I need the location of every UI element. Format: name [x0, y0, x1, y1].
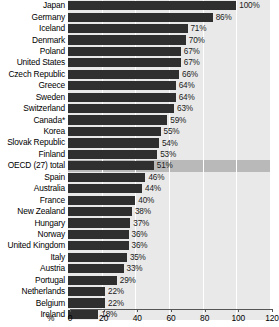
vertical-gridline [203, 172, 204, 183]
vertical-gridline [236, 263, 237, 274]
vertical-gridline [236, 149, 237, 160]
bar-value-label: 59% [170, 116, 186, 125]
bar-value-label: 33% [127, 264, 143, 273]
vertical-gridline [236, 172, 237, 183]
bar [68, 104, 174, 113]
bar [68, 253, 127, 262]
category-label: Slovak Republic [0, 138, 68, 147]
vertical-gridline [270, 92, 271, 103]
bar-value-label: 66% [182, 70, 198, 79]
horizontal-bar-chart: Japan100%Germany86%Iceland71%Denmark70%P… [0, 0, 279, 327]
vertical-gridline [203, 275, 204, 286]
category-label: Netherlands [0, 287, 68, 296]
category-label: Japan [0, 1, 68, 10]
chart-row: Japan100% [0, 0, 279, 11]
vertical-gridline [270, 275, 271, 286]
category-label: OECD (27) total [0, 161, 68, 170]
bar-value-label: 36% [132, 241, 148, 250]
category-label: United States [0, 58, 68, 67]
vertical-gridline [236, 34, 237, 45]
bar-value-label: 67% [184, 58, 200, 67]
vertical-gridline [236, 160, 237, 171]
chart-row: OECD (27) total51% [0, 160, 279, 171]
x-axis-unit-label: % [47, 313, 54, 323]
category-label: Australia [0, 184, 68, 193]
vertical-gridline [203, 114, 204, 125]
vertical-gridline [270, 80, 271, 91]
vertical-gridline [169, 172, 170, 183]
chart-row: Slovak Republic54% [0, 137, 279, 148]
vertical-gridline [270, 206, 271, 217]
vertical-gridline [236, 0, 237, 11]
row-plot-area: 46% [68, 172, 279, 183]
vertical-gridline [135, 297, 136, 308]
bar [68, 207, 132, 216]
vertical-gridline [270, 103, 271, 114]
bar-value-label: 71% [191, 24, 207, 33]
vertical-gridline [203, 103, 204, 114]
x-axis-tick-label: 80 [193, 313, 217, 323]
category-label: Portugal [0, 276, 68, 285]
vertical-gridline [270, 183, 271, 194]
row-plot-area: 70% [68, 34, 279, 45]
vertical-gridline [203, 286, 204, 297]
bar [68, 218, 130, 227]
x-axis-tick [104, 309, 105, 312]
vertical-gridline [270, 126, 271, 137]
vertical-gridline [270, 194, 271, 205]
chart-row: Portugal29% [0, 275, 279, 286]
x-axis-tick-label: 60 [159, 313, 183, 323]
vertical-gridline [169, 297, 170, 308]
chart-row: Belgium22% [0, 297, 279, 308]
vertical-gridline [270, 263, 271, 274]
category-label: United Kingdom [0, 241, 68, 250]
row-plot-area: 22% [68, 286, 279, 297]
bar-value-label: 22% [108, 299, 124, 308]
vertical-gridline [270, 11, 271, 22]
chart-row: France40% [0, 194, 279, 205]
vertical-gridline [203, 217, 204, 228]
bar [68, 184, 142, 193]
row-plot-area: 55% [68, 126, 279, 137]
vertical-gridline [270, 57, 271, 68]
bar [68, 230, 129, 239]
row-plot-area: 67% [68, 57, 279, 68]
vertical-gridline [270, 172, 271, 183]
chart-row: Netherlands22% [0, 286, 279, 297]
row-plot-area: 54% [68, 137, 279, 148]
category-label: Hungary [0, 219, 68, 228]
bar-value-label: 22% [108, 287, 124, 296]
bar [68, 1, 236, 10]
x-axis-tick [238, 309, 239, 312]
vertical-gridline [236, 217, 237, 228]
category-label: Czech Republic [0, 70, 68, 79]
x-axis-tick [70, 309, 71, 312]
chart-row: New Zealand38% [0, 206, 279, 217]
bar [68, 70, 179, 79]
x-axis-tick-label: 40 [125, 313, 149, 323]
row-plot-area: 71% [68, 23, 279, 34]
vertical-gridline [236, 275, 237, 286]
category-label: Korea [0, 127, 68, 136]
vertical-gridline [236, 126, 237, 137]
bar-value-label: 67% [184, 47, 200, 56]
bar-value-label: 100% [239, 1, 259, 10]
bar [68, 298, 105, 307]
bar [68, 35, 186, 44]
vertical-gridline [270, 149, 271, 160]
vertical-gridline [270, 217, 271, 228]
vertical-gridline [236, 297, 237, 308]
row-plot-area: 67% [68, 46, 279, 57]
chart-row: Norway36% [0, 229, 279, 240]
bar-value-label: 51% [157, 161, 173, 170]
vertical-gridline [236, 80, 237, 91]
category-label: Sweden [0, 93, 68, 102]
row-plot-area: 59% [68, 114, 279, 125]
row-plot-area: 40% [68, 194, 279, 205]
bar [68, 150, 157, 159]
vertical-gridline [270, 229, 271, 240]
category-label: Finland [0, 150, 68, 159]
vertical-gridline [270, 46, 271, 57]
vertical-gridline [270, 0, 271, 11]
chart-row: Czech Republic66% [0, 69, 279, 80]
